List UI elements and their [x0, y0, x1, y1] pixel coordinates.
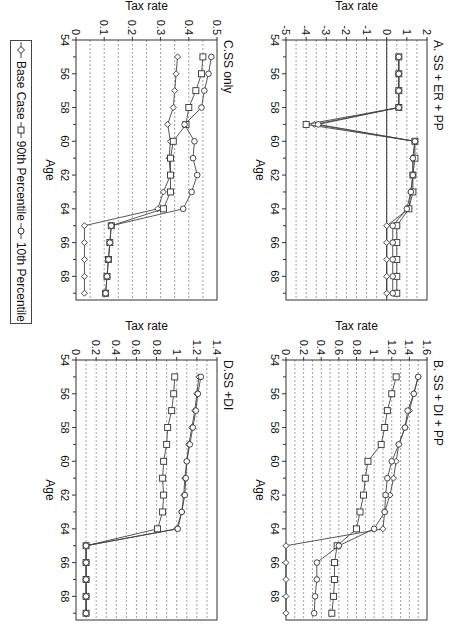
legend-item-base-case: Base Case	[14, 42, 28, 120]
svg-text:0.4: 0.4	[183, 20, 195, 35]
svg-text:0.5: 0.5	[211, 20, 223, 35]
svg-text:2: 2	[421, 29, 433, 35]
svg-text:64: 64	[269, 523, 281, 535]
legend-label-base-case: Base Case	[14, 61, 28, 120]
panel-b-chart: B. SS + DI + PP 5456586062646668Age1.61.…	[249, 320, 449, 639]
svg-text:1.6: 1.6	[421, 340, 433, 355]
svg-text:68: 68	[59, 270, 71, 282]
panel-c-chart: C.SS only 5456586062646668Age0.50.40.30.…	[39, 0, 239, 319]
svg-text:60: 60	[59, 455, 71, 467]
svg-text:-5: -5	[280, 25, 292, 35]
panel-b-plot: 5456586062646668Age1.61.41.210.80.60.40.…	[249, 320, 449, 639]
svg-text:Tax rate: Tax rate	[335, 320, 378, 333]
svg-text:0.2: 0.2	[126, 20, 138, 35]
svg-text:58: 58	[269, 421, 281, 433]
square-marker-icon	[16, 122, 26, 138]
svg-text:56: 56	[59, 388, 71, 400]
svg-text:0.8: 0.8	[351, 340, 363, 355]
svg-text:0.4: 0.4	[110, 340, 122, 355]
panel-d-chart: D.SS +DI 5456586062646668Age1.41.210.80.…	[39, 320, 239, 639]
svg-text:66: 66	[269, 556, 281, 568]
svg-text:58: 58	[269, 101, 281, 113]
svg-text:0: 0	[280, 349, 292, 355]
svg-text:54: 54	[269, 354, 281, 366]
svg-text:0: 0	[70, 29, 82, 35]
svg-text:58: 58	[59, 101, 71, 113]
svg-text:0.1: 0.1	[98, 20, 110, 35]
svg-text:0.3: 0.3	[155, 20, 167, 35]
svg-text:62: 62	[59, 489, 71, 501]
svg-text:1.4: 1.4	[403, 340, 415, 355]
svg-text:1.4: 1.4	[211, 340, 223, 355]
svg-text:Tax rate: Tax rate	[125, 320, 168, 333]
svg-text:Age: Age	[253, 159, 267, 181]
svg-text:0.2: 0.2	[298, 340, 310, 355]
svg-text:60: 60	[269, 135, 281, 147]
svg-text:0.6: 0.6	[130, 340, 142, 355]
svg-text:62: 62	[59, 169, 71, 181]
panel-d-plot: 5456586062646668Age1.41.210.80.60.40.20T…	[39, 320, 239, 639]
svg-text:Age: Age	[253, 479, 267, 501]
svg-text:66: 66	[59, 236, 71, 248]
svg-text:0: 0	[381, 29, 393, 35]
svg-text:66: 66	[59, 556, 71, 568]
svg-text:1: 1	[171, 349, 183, 355]
svg-text:Tax rate: Tax rate	[335, 0, 378, 13]
svg-text:0.4: 0.4	[315, 340, 327, 355]
svg-text:1: 1	[368, 349, 380, 355]
svg-text:Tax rate: Tax rate	[125, 0, 168, 13]
svg-text:64: 64	[59, 203, 71, 215]
svg-text:1.2: 1.2	[386, 340, 398, 355]
svg-text:64: 64	[59, 523, 71, 535]
svg-text:1.2: 1.2	[191, 340, 203, 355]
svg-text:68: 68	[269, 590, 281, 602]
diamond-marker-icon	[16, 42, 26, 58]
svg-text:60: 60	[59, 135, 71, 147]
panel-a-chart: A. SS + ER + PP 5456586062646668Age210-1…	[249, 0, 449, 319]
svg-text:54: 54	[269, 34, 281, 46]
circle-marker-icon	[16, 223, 26, 239]
chart-legend: Base Case 90th Percentile 10th Percentil…	[10, 40, 32, 324]
svg-text:Age: Age	[43, 479, 57, 501]
svg-text:0.6: 0.6	[333, 340, 345, 355]
svg-text:56: 56	[59, 68, 71, 80]
svg-text:-1: -1	[361, 25, 373, 35]
panel-c-plot: 5456586062646668Age0.50.40.30.20.10Tax r…	[39, 0, 239, 319]
svg-text:60: 60	[269, 455, 281, 467]
svg-text:56: 56	[269, 388, 281, 400]
legend-item-90th-percentile: 90th Percentile	[14, 122, 28, 221]
svg-text:Age: Age	[43, 159, 57, 181]
svg-text:62: 62	[269, 489, 281, 501]
svg-text:66: 66	[269, 236, 281, 248]
svg-text:56: 56	[269, 68, 281, 80]
panel-a-plot: 5456586062646668Age210-1-2-3-4-5Tax rate	[249, 0, 449, 319]
svg-text:62: 62	[269, 169, 281, 181]
svg-text:0: 0	[70, 349, 82, 355]
svg-text:58: 58	[59, 421, 71, 433]
svg-text:64: 64	[269, 203, 281, 215]
svg-text:1: 1	[401, 29, 413, 35]
legend-label-10th-percentile: 10th Percentile	[14, 242, 28, 322]
svg-text:54: 54	[59, 354, 71, 366]
figure-rotated: A. SS + ER + PP 5456586062646668Age210-1…	[0, 0, 449, 639]
legend-item-10th-percentile: 10th Percentile	[14, 223, 28, 322]
svg-text:-2: -2	[340, 25, 352, 35]
svg-text:0.2: 0.2	[90, 340, 102, 355]
svg-text:54: 54	[59, 34, 71, 46]
svg-text:68: 68	[59, 590, 71, 602]
svg-text:-3: -3	[320, 25, 332, 35]
legend-label-90th-percentile: 90th Percentile	[14, 141, 28, 221]
svg-text:0.8: 0.8	[151, 340, 163, 355]
svg-text:68: 68	[269, 270, 281, 282]
svg-text:-4: -4	[300, 25, 312, 35]
